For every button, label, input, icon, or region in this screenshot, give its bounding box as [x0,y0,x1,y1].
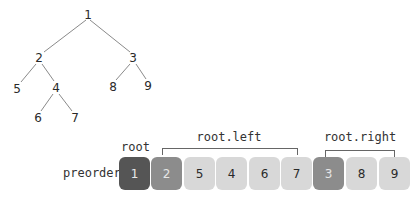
root-right-label: root.right [324,130,396,144]
cell-value: 5 [196,167,204,181]
tree-node-4: 4 [52,82,60,94]
array-cell-left-root: 2 [151,157,182,190]
tree-edge [136,64,146,79]
array-cell: 8 [346,157,377,190]
cell-value: 6 [261,167,269,181]
tree-node-2: 2 [35,52,43,64]
root-left-bracket [162,148,298,155]
preorder-label: preorder [63,166,121,180]
tree-edge [116,64,130,80]
array-cell: 4 [216,157,247,190]
cell-value: 4 [228,167,236,181]
array-cell: 5 [184,157,215,190]
tree-node-9: 9 [144,80,152,92]
tree-node-5: 5 [13,83,21,95]
cell-value: 2 [163,167,171,181]
cell-value: 8 [358,167,366,181]
root-left-label: root.left [196,130,261,144]
cell-value: 1 [131,167,139,181]
tree-node-1: 1 [84,9,92,21]
tree-edge [90,20,130,52]
tree-node-6: 6 [34,112,42,124]
cell-value: 3 [325,167,333,181]
array-cell-right-root: 3 [313,157,344,190]
tree-edge [42,64,54,81]
array-cell: 6 [249,157,280,190]
cell-value: 9 [391,167,399,181]
tree-edge [44,20,86,52]
cell-value: 7 [293,167,301,181]
root-label: root [121,140,150,154]
root-right-bracket [325,150,395,157]
tree-edge [41,94,53,111]
array-cell: 7 [281,157,312,190]
tree-node-3: 3 [129,52,137,64]
array-cell-root: 1 [119,157,150,190]
tree-node-7: 7 [71,112,79,124]
tree-edge [59,94,72,111]
tree-edge [21,64,36,82]
tree-node-8: 8 [109,81,117,93]
array-cell: 9 [379,157,410,190]
